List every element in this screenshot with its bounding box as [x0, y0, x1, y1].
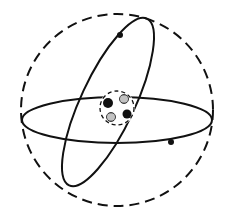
electron [168, 139, 174, 145]
electron [117, 32, 123, 38]
atom-diagram [0, 0, 229, 221]
nucleus-background [99, 90, 135, 126]
proton-particle [103, 98, 113, 108]
proton-particle [123, 110, 132, 119]
